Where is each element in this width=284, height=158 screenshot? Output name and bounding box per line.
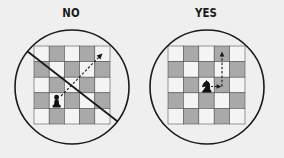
no-diagram — [0, 0, 142, 158]
yes-diagram — [135, 0, 277, 158]
panel-no: NO — [0, 0, 142, 158]
panel-yes: YES — [135, 0, 277, 158]
